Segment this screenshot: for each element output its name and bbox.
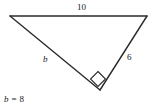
caption-variable: b bbox=[4, 94, 9, 104]
triangle-side-right bbox=[100, 16, 147, 90]
side-label-top: 10 bbox=[77, 2, 86, 12]
caption-value: 8 bbox=[20, 94, 25, 104]
geometry-figure: 10 b 6 b=8 bbox=[0, 0, 154, 111]
triangle-side-left bbox=[10, 16, 100, 90]
side-label-right: 6 bbox=[127, 52, 132, 62]
caption-equation: b=8 bbox=[4, 94, 24, 105]
side-label-left: b bbox=[43, 54, 48, 64]
caption-operator: = bbox=[12, 94, 17, 104]
